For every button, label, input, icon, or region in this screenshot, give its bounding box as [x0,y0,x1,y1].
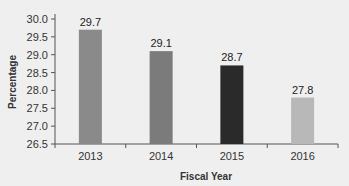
bar-2013 [79,30,102,144]
bars: 29.729.128.727.8 [79,16,314,144]
bar-value-label: 29.1 [150,37,171,49]
y-tick-label: 30.0 [27,13,48,25]
y-tick-label: 27.5 [27,102,48,114]
x-axis-title: Fiscal Year [180,171,232,182]
y-axis: 30.029.529.028.528.027.527.026.5 [27,13,55,150]
bar-value-label: 29.7 [80,16,101,28]
bar-2015 [220,65,243,144]
y-tick-label: 27.0 [27,120,48,132]
x-tick-label: 2016 [290,150,314,162]
y-tick-label: 29.5 [27,31,48,43]
x-axis: 2013201420152016 [55,144,338,162]
bar-chart: 30.029.529.028.528.027.527.026.5 2013201… [0,0,349,186]
x-tick-label: 2013 [78,150,102,162]
x-tick-label: 2015 [220,150,244,162]
bar-value-label: 27.8 [292,84,313,96]
y-tick-label: 28.0 [27,84,48,96]
y-tick-label: 29.0 [27,49,48,61]
y-tick-label: 26.5 [27,138,48,150]
x-tick-label: 2014 [149,150,173,162]
bar-2016 [291,98,314,144]
bar-2014 [150,51,173,144]
bar-value-label: 28.7 [221,51,242,63]
y-axis-title: Percentage [7,55,18,109]
y-tick-label: 28.5 [27,67,48,79]
